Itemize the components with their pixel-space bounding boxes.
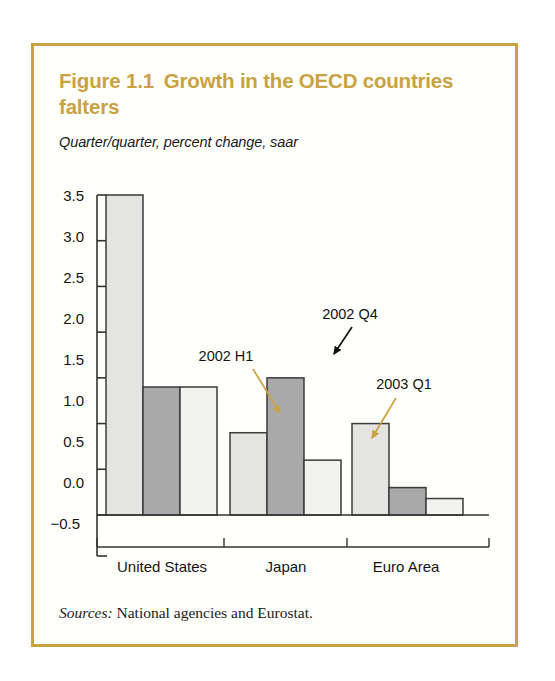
y-tick-label-2.0: 2.0	[40, 310, 84, 327]
bar-united-states-2003-q1	[180, 387, 217, 515]
y-tick-label-3.0: 3.0	[40, 228, 84, 245]
bar-japan-2002-h1	[230, 433, 267, 515]
x-category-label-united-states: United States	[117, 558, 207, 575]
y-tick-label-0.5: 0.5	[40, 433, 84, 450]
y-tick-label-2.5: 2.5	[40, 269, 84, 286]
annotation-label-2003-q1: 2003 Q1	[376, 376, 432, 392]
y-tick-label-minus-0.5: −0.5	[36, 515, 80, 532]
source-line: Sources: National agencies and Eurostat.	[59, 604, 313, 622]
annotation-label-2002-q4: 2002 Q4	[322, 306, 378, 322]
x-category-label-japan: Japan	[266, 558, 307, 575]
figure-card: Figure 1.1Growth in the OECD countries f…	[31, 43, 518, 647]
source-lead: Sources:	[59, 604, 113, 621]
annotation-label-2002-h1: 2002 H1	[199, 348, 254, 364]
annotation-arrow-2002-q4	[334, 327, 352, 354]
y-tick-label-1.5: 1.5	[40, 351, 84, 368]
bar-united-states-2002-h1	[106, 195, 143, 515]
bar-japan-2002-q4	[267, 378, 304, 515]
bar-euro-area-2002-q4	[389, 488, 426, 515]
y-tick-label-1.0: 1.0	[40, 392, 84, 409]
y-tick-label-3.5: 3.5	[40, 187, 84, 204]
bar-euro-area-2002-h1	[352, 424, 389, 515]
bar-japan-2003-q1	[304, 460, 341, 515]
y-tick-label-0.0: 0.0	[40, 474, 84, 491]
source-text: National agencies and Eurostat.	[117, 604, 313, 621]
bar-united-states-2002-q4	[143, 387, 180, 515]
x-category-label-euro-area: Euro Area	[373, 558, 440, 575]
bar-euro-area-2003-q1	[426, 499, 463, 515]
